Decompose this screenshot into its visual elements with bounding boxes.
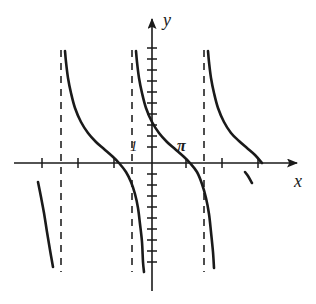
branch-right [208, 51, 262, 163]
x-axis-label: x [294, 172, 302, 190]
y-intercept-label-one: 1 [130, 139, 138, 154]
branch-right [245, 172, 252, 183]
y-axis-label: y [163, 11, 171, 29]
cotangent-graph-figure: y x 1 π [0, 0, 316, 304]
branch-far-left-partial [38, 182, 53, 267]
branch-center [136, 51, 214, 268]
plot-canvas [0, 0, 316, 304]
cotangent-curve-branches [38, 51, 262, 272]
x-axis-pi-label: π [177, 138, 186, 154]
vertical-asymptotes [61, 50, 204, 272]
